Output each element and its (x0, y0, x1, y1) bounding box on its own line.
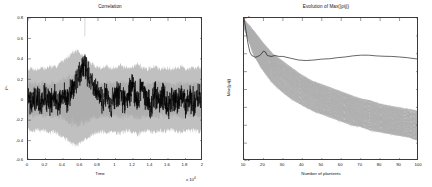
x-exponent-power: 4 (194, 176, 196, 180)
xtick-label: 1.6 (161, 162, 173, 167)
ytick-label: -0.4 (6, 138, 23, 143)
ytick-label: 0 (8, 97, 23, 102)
plot-area-evolution (243, 17, 418, 160)
axis-label-x-evolution: Number of plantents (301, 171, 341, 176)
xtick-label: 100 (411, 162, 425, 167)
xtick-label: 10 (237, 162, 249, 167)
xtick-label: 30 (276, 162, 288, 167)
figure-canvas: Correlation 0.8 0.6 0.4 0.2 0 -0.2 -0.4 … (0, 0, 432, 187)
ytick-label: 0.2 (8, 77, 23, 82)
xtick-label: 0.2 (39, 162, 51, 167)
xtick-label: 20 (256, 162, 268, 167)
xtick-label: 80 (373, 162, 385, 167)
xtick-label: 40 (295, 162, 307, 167)
plot-area-correlation (27, 17, 202, 160)
xtick-label: 0.4 (56, 162, 68, 167)
xtick-label: 90 (393, 162, 405, 167)
x-exponent-label: x 104 (186, 176, 196, 182)
ytick-label: 0.6 (8, 36, 23, 41)
ytick-label: -0.2 (6, 117, 23, 122)
gray-ensemble-bundle (244, 19, 418, 141)
xtick-label: 50 (315, 162, 327, 167)
xtick-label: 0.8 (91, 162, 103, 167)
xtick-label: 0 (21, 162, 33, 167)
xtick-label: 1 (109, 162, 121, 167)
xtick-label: 0.6 (74, 162, 86, 167)
xtick-label: 1.2 (126, 162, 138, 167)
axis-label-y-correlation: ρ₀ (3, 80, 8, 96)
xtick-label: 1.8 (179, 162, 191, 167)
chart-title-correlation: Correlation (45, 4, 175, 9)
ytick-label: 0.8 (8, 15, 23, 20)
xtick-label: 1.4 (144, 162, 156, 167)
axis-label-x-correlation: Time (95, 171, 105, 176)
chart-title-evolution: Evolution of Max(|ρij|) (256, 4, 396, 9)
xtick-label: 60 (334, 162, 346, 167)
panel-correlation: Correlation 0.8 0.6 0.4 0.2 0 -0.2 -0.4 … (0, 0, 216, 187)
xtick-label: 2 (196, 162, 208, 167)
x-exponent-base: x 10 (186, 177, 194, 182)
axis-label-y-evolution: Max(|ρij|) (226, 68, 231, 108)
correlation-plot-svg (28, 18, 202, 160)
evolution-plot-svg (244, 18, 418, 160)
xtick-label: 70 (354, 162, 366, 167)
ytick-label: -0.6 (6, 157, 23, 162)
ytick-label: 0.4 (8, 56, 23, 61)
panel-evolution: Evolution of Max(|ρij|) 1 0.9 0.8 0.7 0.… (216, 0, 432, 187)
